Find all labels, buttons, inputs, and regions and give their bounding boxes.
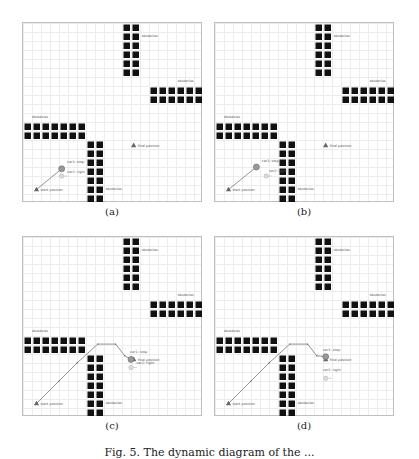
trajectory-path <box>229 344 326 403</box>
car2-icon <box>264 174 268 178</box>
car1-icon <box>59 166 65 172</box>
obstacle-block: obstacles <box>316 239 351 291</box>
obstacle-block: obstacles <box>343 293 395 318</box>
obstacle-block: obstacles <box>217 115 278 140</box>
obstacle-block: obstacles <box>343 79 395 104</box>
final-label: final position <box>330 144 352 148</box>
car2-label: car2: right <box>67 170 85 174</box>
car2-label: car2: right <box>269 169 287 173</box>
trajectory-path <box>37 344 132 403</box>
trajectory-path <box>229 167 257 190</box>
obstacle-label: obstacles <box>178 79 194 83</box>
obstacle-block: obstacles <box>88 142 123 203</box>
car2-icon <box>129 365 133 369</box>
obstacle-label: obstacles <box>224 115 240 119</box>
car2-icon <box>60 174 64 178</box>
panel-caption-a: (a) <box>92 206 132 217</box>
obstacle-block: obstacles <box>316 25 351 77</box>
car1-label: car1: stop <box>323 348 340 352</box>
obstacle-label: obstacles <box>32 329 48 333</box>
final-marker-icon <box>131 143 136 148</box>
figure-caption: Fig. 5. The dynamic diagram of the ... <box>0 446 419 459</box>
obstacle-block: obstacles <box>124 239 159 291</box>
car1-label: car1: stop <box>262 159 279 163</box>
car1-icon <box>253 164 259 170</box>
panel-caption-c: (c) <box>92 420 132 431</box>
start-marker-icon <box>226 187 231 192</box>
car1-label: car1: stop <box>130 350 147 354</box>
obstacle-block: obstacles <box>88 356 123 417</box>
final-label: final position <box>138 144 160 148</box>
car1-icon <box>323 354 329 360</box>
start-label: start position <box>41 188 63 192</box>
panel-b: obstaclesobstaclesobstaclesobstaclesstar… <box>214 22 394 202</box>
obstacle-block: obstacles <box>217 329 278 354</box>
obstacle-label: obstacles <box>142 248 158 252</box>
final-label: final position <box>330 358 352 362</box>
obstacle-label: obstacles <box>334 248 350 252</box>
obstacle-block: obstacles <box>151 293 203 318</box>
obstacle-label: obstacles <box>298 401 314 405</box>
obstacle-label: obstacles <box>106 401 122 405</box>
car2-label: car2: right <box>136 361 154 365</box>
panel-caption-b: (b) <box>284 206 324 217</box>
car2-label: car2: right <box>323 368 341 372</box>
car1-icon <box>128 356 134 362</box>
obstacle-block: obstacles <box>124 25 159 77</box>
obstacle-label: obstacles <box>334 34 350 38</box>
panel-a: obstaclesobstaclesobstaclesobstaclesstar… <box>22 22 202 202</box>
obstacle-label: obstacles <box>32 115 48 119</box>
start-label: start position <box>233 188 255 192</box>
panel-d: obstaclesobstaclesobstaclesobstaclesstar… <box>214 236 394 416</box>
obstacle-block: obstacles <box>151 79 203 104</box>
panel-c: obstaclesobstaclesobstaclesobstaclesstar… <box>22 236 202 416</box>
start-label: start position <box>41 402 63 406</box>
start-marker-icon <box>34 187 39 192</box>
start-label: start position <box>233 402 255 406</box>
car2-icon <box>324 376 328 380</box>
trajectory-path <box>37 169 62 190</box>
obstacle-label: obstacles <box>370 293 386 297</box>
obstacle-label: obstacles <box>298 187 314 191</box>
car1-label: car1: stop <box>67 160 84 164</box>
obstacle-block: obstacles <box>25 329 86 354</box>
obstacle-block: obstacles <box>280 356 315 417</box>
obstacle-block: obstacles <box>25 115 86 140</box>
obstacle-label: obstacles <box>106 187 122 191</box>
panel-caption-d: (d) <box>284 420 324 431</box>
obstacle-label: obstacles <box>224 329 240 333</box>
obstacle-label: obstacles <box>142 34 158 38</box>
obstacle-label: obstacles <box>178 293 194 297</box>
obstacle-label: obstacles <box>370 79 386 83</box>
final-marker-icon <box>323 143 328 148</box>
